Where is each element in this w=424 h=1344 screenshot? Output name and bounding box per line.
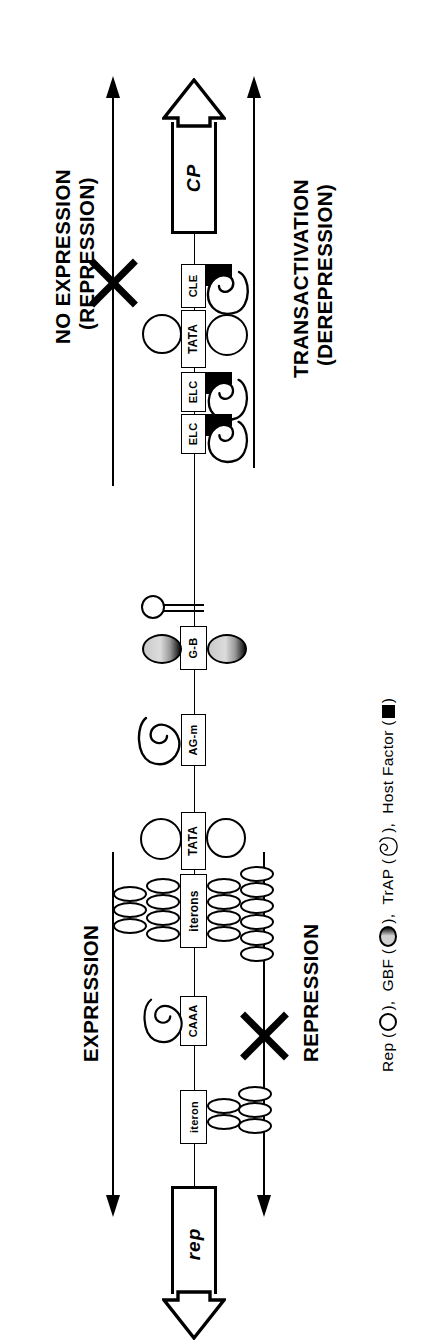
rep-protein-circle [206,818,246,858]
promoter-box-elc-2[interactable]: ELC [181,414,206,454]
gene-arrow-rep: rep [160,1186,228,1338]
rep-oligomer-ring [207,1114,241,1130]
rep-protein-circle [206,314,248,356]
legend-trap-sep: ), [379,823,397,833]
rep-oligomer-ring [238,1118,272,1134]
rep-oligomer-ring [113,918,147,934]
promoter-box-iterons[interactable]: iterons [180,874,207,948]
rep-oligomer-ring [207,910,241,926]
promoter-box-label: iteron [188,1101,200,1133]
rep-oligomer-ring [240,914,274,930]
legend-hf-label: Host Factor ( [379,720,397,813]
promoter-box-iteron[interactable]: iteron [180,1090,207,1144]
rep-oligomer-ring [207,926,241,942]
rep-oligomer-ring [146,878,180,894]
rep-oligomer-ring [207,1098,241,1114]
promoter-box-label: TATA [187,826,201,856]
promoter-box-label: ELC [187,423,199,446]
legend-trap-label: TrAP ( [379,859,397,905]
promoter-box-label: ELC [187,381,199,404]
rep-oligomer-ring [240,882,274,898]
arrow-shaft [253,96,255,468]
trap-symbol-icon [378,835,398,857]
promoter-box-cle[interactable]: CLE [181,264,206,308]
rep-protein-circle [140,818,182,860]
promoter-box-g-box[interactable]: G-B [180,626,207,670]
rep-oligomer-ring [240,898,274,914]
rep-oligomer-ring [240,866,274,882]
trap-protein-cle [205,268,251,316]
promoter-box-ag-motif[interactable]: AG-m [181,714,206,766]
legend-rep-sep: ), [379,1001,397,1011]
promoter-box-label: iterons [187,890,201,931]
repression-block-x [233,1005,295,1067]
promoter-box-elc-1[interactable]: ELC [181,372,206,412]
arrow-head [106,1195,120,1217]
promoter-box-label: G-B [187,638,199,659]
promoter-box-label: CLE [187,275,199,298]
arrow-shaft [112,852,114,1197]
promoter-box-label: CAAA [188,1005,200,1038]
legend-gbf-label: GBF ( [379,949,397,992]
rep-oligomer-ring [146,926,180,942]
gbf-linker-stalk [160,610,204,612]
label-expression: EXPRESSION [80,925,102,1062]
rep-oligomer-ring [238,1102,272,1118]
label-transactivation: TRANSACTIVATION [290,179,312,378]
legend-gbf-sep: ), [379,914,397,924]
rep-oligomer-ring [207,878,241,894]
gbf-protein-oval [207,634,247,664]
legend-hf-sep: ) [379,698,397,703]
arrow-head [106,76,120,98]
rep-symbol-icon [379,1013,397,1031]
gbf-protein-oval [142,634,182,664]
rep-oligomer-ring [146,894,180,910]
promoter-box-caaa[interactable]: CAAA [180,996,207,1046]
gbf-symbol-icon [379,926,397,947]
gbf-linker-stalk [160,604,204,606]
rep-oligomer-ring [240,946,274,962]
gene-label-rep: rep [183,1228,205,1261]
trap-protein-caaa [140,994,184,1044]
rep-oligomer-ring [238,1086,272,1102]
label-repression-paren: (REPRESSION) [76,177,98,330]
rep-oligomer-ring [113,902,147,918]
gbf-linker-knob-circle [141,595,165,619]
promoter-box-tata-rep[interactable]: TATA [181,812,206,870]
label-no-expression: NO EXPRESSION [52,169,74,344]
rep-protein-circle [142,314,182,354]
arrow-head [247,76,261,98]
rep-oligomer-ring [240,930,274,946]
promoter-box-tata-cp[interactable]: TATA [181,310,206,368]
gene-arrow-cp: CP [160,78,228,234]
legend-rep-label: Rep ( [379,1033,397,1072]
label-repression: REPRESSION [300,924,322,1062]
promoter-box-label: AG-m [188,725,200,756]
legend: Rep ( ), GBF ( ), TrAP ( ), Host Factor … [378,698,398,1072]
label-derepression-paren: (DEREPRESSION) [314,184,336,366]
arrow-head [257,1195,271,1217]
gene-label-cp: CP [183,164,205,192]
promoter-box-label: TATA [187,324,201,354]
host-factor-symbol-icon [382,705,395,718]
rep-oligomer-ring [146,910,180,926]
trap-protein-elc-2 [205,418,251,464]
rep-oligomer-ring [113,886,147,902]
trap-protein-ag-motif [134,712,182,766]
rep-oligomer-ring [207,894,241,910]
